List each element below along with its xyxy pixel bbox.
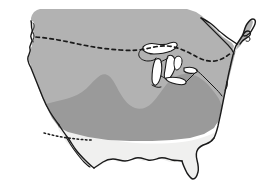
shaded-zone-group: [0, 0, 266, 185]
lake-ontario: [184, 67, 197, 73]
map-figure: [0, 0, 266, 185]
map-svg: [0, 0, 266, 185]
